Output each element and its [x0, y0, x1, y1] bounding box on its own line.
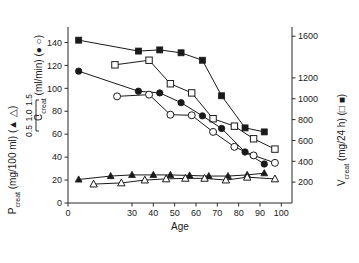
ccreat-legend-markers: ● ○ [33, 38, 44, 53]
marker-open-square [189, 90, 195, 96]
vcreat-paren-close: ) [336, 94, 347, 97]
pcreat-subscript: creat [14, 192, 21, 208]
marker-filled-square [76, 37, 82, 43]
marker-open-square [146, 57, 152, 63]
marker-filled-circle [261, 161, 267, 167]
marker-filled-circle [157, 90, 163, 96]
x-axis-tick-label: 40 [148, 208, 158, 218]
marker-filled-circle [135, 88, 141, 94]
right-axis-tick-label: 1200 [298, 73, 318, 83]
marker-filled-triangle [150, 171, 157, 177]
marker-open-square [250, 136, 256, 142]
ccreat-paren-close: ) [33, 35, 44, 38]
x-axis-tick-label: 30 [127, 208, 137, 218]
marker-open-circle [231, 143, 238, 150]
marker-open-circle [271, 159, 278, 166]
marker-filled-circle [199, 113, 205, 119]
right-axis-tick-label: 800 [298, 115, 313, 125]
marker-open-circle [188, 112, 195, 119]
marker-filled-square [219, 93, 225, 99]
marker-filled-square [157, 47, 163, 53]
marker-open-circle [146, 91, 153, 98]
left-axis-tick-label: 140 [47, 38, 62, 48]
marker-filled-square [199, 57, 205, 63]
pcreat-unit: (mg/100 ml) ( [7, 129, 18, 192]
pcreat-legend-markers: ▲ △ [7, 109, 18, 130]
left-axis-tick-label: 0 [57, 198, 62, 208]
x-axis-tick-label: 0 [65, 208, 70, 218]
left-axis-title-ccreat: Ccreat (ml/min) (● ○) [33, 35, 47, 121]
series-open-circle [114, 91, 279, 166]
vcreat-legend-markers: □ ■ [336, 97, 347, 112]
figure-root: 0204060801001201402004006008001000120016… [0, 0, 359, 263]
marker-filled-square [261, 129, 267, 135]
marker-filled-triangle [167, 171, 174, 177]
marker-filled-triangle [261, 170, 268, 176]
marker-filled-circle [218, 125, 224, 131]
x-axis-title: Age [171, 221, 189, 232]
series-open-square [112, 57, 278, 152]
vcreat-subscript: creat [343, 164, 350, 180]
x-axis-tick-label: 80 [234, 208, 244, 218]
marker-open-square [112, 62, 118, 68]
x-axis-tick-label: 70 [212, 208, 222, 218]
pcreat-paren-close: ) [7, 106, 18, 109]
x-axis-tick-label: 60 [191, 208, 201, 218]
right-axis-tick-label: 1600 [298, 31, 318, 41]
left-axis-title-pcreat: Pcreat (mg/100 ml) (▲ △) [7, 106, 21, 215]
marker-open-circle [167, 111, 174, 118]
marker-open-circle [114, 93, 121, 100]
x-axis-tick-label: 50 [170, 208, 180, 218]
marker-open-circle [210, 128, 217, 135]
right-axis-tick-label: 400 [298, 157, 313, 167]
ccreat-symbol: C [33, 114, 44, 121]
mini-scale-tick-label: 0.5 [24, 125, 34, 137]
ccreat-unit: (ml/min) ( [33, 53, 44, 99]
marker-filled-circle [178, 99, 184, 105]
marker-filled-square [178, 50, 184, 56]
ccreat-subscript: creat [40, 98, 47, 114]
right-axis-tick-label: 1000 [298, 94, 318, 104]
marker-filled-circle [75, 68, 81, 74]
marker-filled-triangle [129, 171, 136, 177]
left-axis-tick-label: 120 [47, 61, 62, 71]
left-axis-tick-label: 100 [47, 84, 62, 94]
left-axis-tick-label: 80 [52, 106, 62, 116]
left-axis-tick-label: 40 [52, 152, 62, 162]
chart-canvas: 0204060801001201402004006008001000120016… [0, 0, 359, 263]
marker-open-circle [250, 152, 257, 159]
right-axis-tick-label: 200 [298, 177, 313, 187]
x-axis-tick-label: 90 [255, 208, 265, 218]
marker-open-square [167, 81, 173, 87]
x-axis-tick-label: 100 [274, 208, 289, 218]
vcreat-unit: (mg/24 h) ( [336, 111, 347, 163]
marker-filled-square [135, 48, 141, 54]
marker-filled-square [242, 125, 248, 131]
mini-scale-tick-label: 1.5 [24, 94, 34, 106]
left-axis-tick-label: 60 [52, 129, 62, 139]
marker-open-square [231, 123, 237, 129]
marker-open-square [272, 146, 278, 152]
right-axis-title-vcreat: Vcreat (mg/24 h) (□ ■) [336, 94, 350, 186]
mini-scale-tick-label: 1.0 [24, 109, 34, 121]
right-axis-tick-label: 600 [298, 136, 313, 146]
series-filled-triangle [75, 170, 267, 183]
left-axis-tick-label: 20 [52, 175, 62, 185]
